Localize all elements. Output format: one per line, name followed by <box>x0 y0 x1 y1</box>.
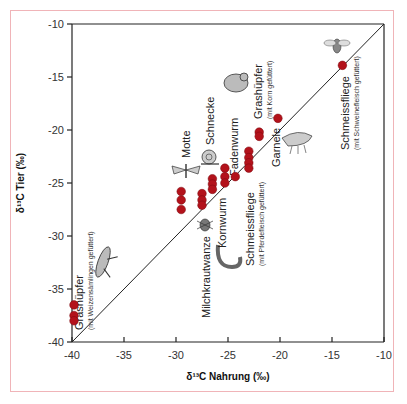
label-garnele: Garnele <box>270 128 282 167</box>
y-tick-label: -20 <box>48 124 64 136</box>
x-tick-label: -30 <box>168 349 184 361</box>
label-schmeissfliege-pferd: Schmeissfliege (mit Pferdefleisch gefütt… <box>244 182 266 266</box>
data-point <box>177 187 186 196</box>
data-point <box>274 114 283 123</box>
x-ticks: -40-35-30-25-20-15-10 <box>64 337 392 361</box>
y-tick-label: -30 <box>48 230 64 242</box>
fly-icon <box>324 39 350 53</box>
data-point <box>338 61 347 70</box>
grasshopper-icon <box>93 245 120 281</box>
svg-text:Schmeissfliege: Schmeissfliege <box>244 192 256 266</box>
bug-icon <box>197 219 213 231</box>
svg-text:(mit Weizensämlingen gefüttert: (mit Weizensämlingen gefüttert) <box>87 231 95 330</box>
data-point <box>177 196 186 205</box>
data-point <box>245 164 254 173</box>
label-schmeissfliege-schwein: Schmeissfliege (mit Schweinefleisch gefü… <box>339 56 361 150</box>
label-motte: Motte <box>180 130 192 158</box>
data-point <box>70 317 79 326</box>
y-tick-label: -10 <box>48 18 64 30</box>
x-tick-label: -35 <box>116 349 132 361</box>
svg-text:(mit Schweinefleisch gefüttert: (mit Schweinefleisch gefüttert) <box>353 56 361 150</box>
data-point <box>177 205 186 214</box>
data-point <box>208 185 217 194</box>
data-point <box>231 172 240 181</box>
label-fadenwurm: Fadenwurm <box>228 118 240 176</box>
svg-text:Grashüpfer: Grashüpfer <box>252 64 264 119</box>
svg-text:(mit Pferdefleisch gefüttert): (mit Pferdefleisch gefüttert) <box>258 182 266 266</box>
label-grashuepfer-korn: Grashüpfer (mit Korn gefüttert) <box>252 61 274 119</box>
x-tick-label: -40 <box>64 349 80 361</box>
data-point <box>221 179 230 188</box>
scatter-chart: -40-35-30-25-20-15-10 -40-35-30-25-20-15… <box>0 0 407 404</box>
pig-icon <box>224 73 248 92</box>
y-ticks: -40-35-30-25-20-15-10 <box>48 18 72 348</box>
data-point <box>70 301 79 310</box>
label-milchkrautwanze: Milchkrautwanze <box>200 236 212 318</box>
y-tick-label: -40 <box>48 336 64 348</box>
svg-text:(mit Korn gefüttert): (mit Korn gefüttert) <box>266 61 274 119</box>
y-axis-title: δ¹³C Tier (‰) <box>15 153 26 213</box>
data-point <box>198 201 207 210</box>
x-tick-label: -25 <box>220 349 236 361</box>
x-tick-label: -20 <box>272 349 288 361</box>
y-tick-label: -35 <box>48 283 64 295</box>
moth-icon <box>172 164 200 178</box>
x-tick-label: -15 <box>324 349 340 361</box>
svg-text:Schmeissfliege: Schmeissfliege <box>339 76 351 150</box>
y-tick-label: -25 <box>48 177 64 189</box>
label-kornwurm: Kornwurm <box>216 198 228 248</box>
data-point <box>221 164 230 173</box>
label-schnecke: Schnecke <box>204 97 216 145</box>
x-tick-label: -10 <box>376 349 392 361</box>
x-axis-title: δ¹³C Nahrung (‰) <box>186 371 269 382</box>
shrimp-icon <box>282 132 312 154</box>
data-point <box>255 132 264 141</box>
snail-icon <box>201 150 219 164</box>
y-tick-label: -15 <box>48 71 64 83</box>
